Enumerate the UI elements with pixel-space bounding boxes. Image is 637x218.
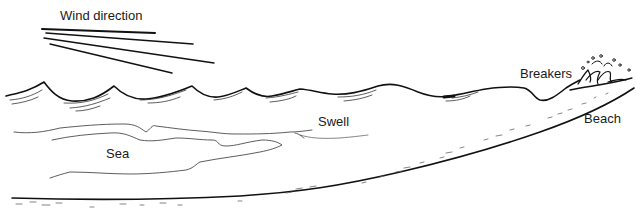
sea-surface bbox=[6, 80, 580, 111]
sea-texture-lines bbox=[14, 124, 312, 178]
label-swell: Swell bbox=[318, 115, 349, 128]
label-wind-direction: Wind direction bbox=[60, 9, 142, 22]
diagram-drawing bbox=[0, 0, 637, 218]
wave-formation-diagram: Wind direction Swell Sea Breakers Beach bbox=[0, 0, 637, 218]
breaker-spray bbox=[570, 55, 632, 90]
label-beach: Beach bbox=[584, 112, 621, 125]
label-breakers: Breakers bbox=[520, 67, 572, 80]
wind-lines bbox=[42, 29, 214, 73]
swell-texture-line bbox=[295, 133, 368, 138]
label-sea: Sea bbox=[106, 147, 129, 160]
